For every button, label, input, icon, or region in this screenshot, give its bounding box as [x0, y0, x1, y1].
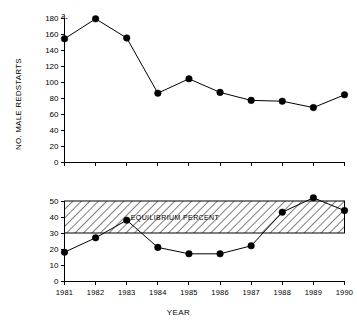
- data-point-marker: [186, 76, 193, 83]
- data-point-marker: [341, 92, 348, 99]
- y-tick-label: 60: [50, 110, 59, 119]
- y-tick-label: 20: [50, 142, 59, 151]
- data-point-marker: [279, 209, 286, 216]
- data-point-marker: [310, 195, 317, 202]
- data-point-marker: [248, 243, 255, 250]
- y-tick-label: 180: [45, 14, 59, 23]
- data-point-marker: [248, 97, 255, 104]
- data-point-marker: [341, 207, 348, 214]
- y-tick-label: 30: [50, 229, 59, 238]
- x-tick-label: 1985: [180, 288, 198, 297]
- x-tick-label: 1983: [118, 288, 136, 297]
- data-point-marker: [217, 89, 224, 96]
- x-tick-label: 1981: [56, 288, 74, 297]
- x-tick-label: 1990: [336, 288, 354, 297]
- y-tick-label: 20: [50, 245, 59, 254]
- panel-b-plot: EQUILIBRIUM PERCENT 50403020100 19811982…: [0, 180, 357, 326]
- panel-a-series-line: [65, 19, 345, 108]
- y-tick-label: 140: [45, 46, 59, 55]
- panel-a-y-ticks: 180160140120100806040200: [45, 14, 64, 167]
- y-tick-label: 120: [45, 62, 59, 71]
- y-tick-label: 40: [50, 213, 59, 222]
- x-axis-label: YEAR: [0, 308, 357, 317]
- x-tick-label: 1989: [305, 288, 323, 297]
- x-tick-label: 1986: [211, 288, 229, 297]
- data-point-marker: [217, 251, 224, 258]
- data-point-marker: [155, 244, 162, 251]
- y-tick-label: 80: [50, 94, 59, 103]
- y-tick-label: 10: [50, 261, 59, 270]
- x-tick-label: 1987: [242, 288, 260, 297]
- data-point-marker: [155, 90, 162, 97]
- data-point-marker: [310, 104, 317, 111]
- panel-b-x-tick-labels: 1981198219831984198519861987198819891990: [56, 288, 354, 297]
- panel-b-y-ticks: 50403020100: [50, 197, 65, 286]
- chart-panel-b: EQUILIBRIUM PERCENT 50403020100 19811982…: [0, 180, 357, 326]
- data-point-marker: [61, 36, 68, 43]
- y-tick-label: 40: [50, 126, 59, 135]
- y-tick-label: 160: [45, 30, 59, 39]
- chart-panel-a: 180160140120100806040200 a. NO. MALE RED…: [0, 0, 357, 180]
- y-tick-label: 0: [54, 158, 59, 167]
- data-point-marker: [123, 35, 130, 42]
- figure-container: 180160140120100806040200 a. NO. MALE RED…: [0, 0, 357, 326]
- data-point-marker: [92, 235, 99, 242]
- data-point-marker: [92, 15, 99, 22]
- x-tick-label: 1982: [87, 288, 105, 297]
- y-tick-label: 50: [50, 197, 59, 206]
- y-tick-label: 0: [54, 277, 59, 286]
- x-tick-label: 1988: [274, 288, 292, 297]
- data-point-marker: [61, 249, 68, 256]
- panel-a-letter: a.: [61, 10, 68, 21]
- panel-a-series-points: [61, 15, 348, 110]
- panel-a-y-axis-label: NO. MALE REDSTARTS: [14, 58, 23, 150]
- equilibrium-band-label: EQUILIBRIUM PERCENT: [131, 214, 220, 222]
- panel-a-plot: 180160140120100806040200: [0, 0, 357, 180]
- data-point-marker: [186, 251, 193, 258]
- data-point-marker: [279, 98, 286, 105]
- data-point-marker: [123, 217, 130, 224]
- x-tick-label: 1984: [149, 288, 167, 297]
- y-tick-label: 100: [45, 78, 59, 87]
